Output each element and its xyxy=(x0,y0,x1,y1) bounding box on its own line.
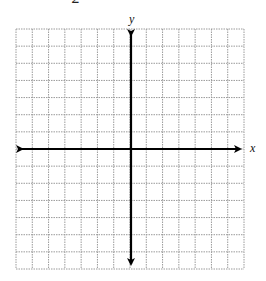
y-axis-label: y xyxy=(129,12,134,27)
x-axis-label: x xyxy=(250,141,255,156)
coordinate-plane xyxy=(0,0,266,281)
